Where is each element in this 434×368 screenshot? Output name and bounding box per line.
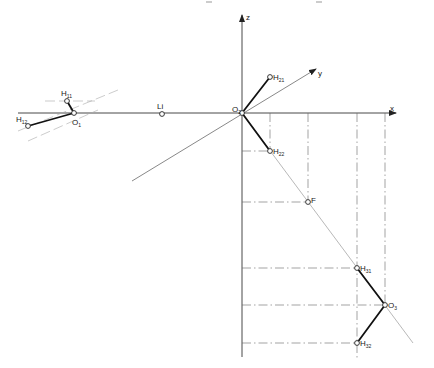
z-axis-label: z [246,13,250,22]
label-O3: O3 [388,301,397,311]
point-H32 [355,341,360,346]
axes [18,15,396,357]
label-H22: H22 [273,147,285,157]
label-H31: H31 [360,264,372,274]
point-F [306,200,311,205]
label-H32: H32 [360,339,372,349]
point-Li [160,112,165,117]
labels: z x y O2 H21 H22 F H31 O3 H32 Li O1 H11 … [16,13,397,349]
point-H21 [268,75,273,80]
y-axis-label: y [318,69,322,78]
y-axis [132,69,316,181]
label-H12: H12 [16,115,28,125]
geometry-diagram: z x y O2 H21 H22 F H31 O3 H32 Li O1 H11 … [0,0,434,368]
label-O2: O2 [232,105,241,115]
label-F: F [311,196,316,205]
point-H22 [268,149,273,154]
construction-lines [242,113,385,358]
label-H21: H21 [273,73,285,83]
label-Li: Li [157,102,163,111]
point-O1 [72,111,77,116]
label-O1: O1 [72,118,81,128]
label-H11: H11 [61,89,72,99]
point-H11 [65,99,70,104]
point-O3 [383,303,388,308]
bold-segments [28,77,385,343]
x-axis-label: x [390,104,394,113]
point-H31 [355,266,360,271]
